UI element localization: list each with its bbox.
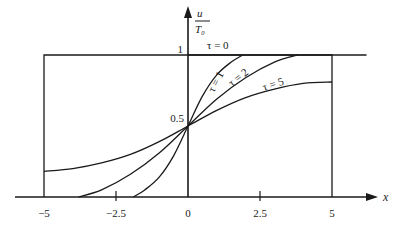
curve-label: τ = 5 [261, 75, 286, 93]
curve-labels: τ = 0τ = 1τ = 2τ = 5 [205, 39, 285, 94]
axes: x u T₀ [15, 6, 389, 204]
x-axis-arrow-icon [366, 193, 378, 201]
x-tick-label: −2.5 [106, 207, 126, 219]
x-tick-label: 0 [185, 207, 191, 219]
x-tick-label: 2.5 [253, 207, 267, 219]
x-ticks: −5−2.502.55 [38, 191, 335, 219]
curve-label: τ = 2 [226, 66, 250, 89]
curve-label: τ = 1 [205, 69, 226, 94]
x-tick-label: 5 [329, 207, 335, 219]
curves [44, 55, 367, 197]
y-tick-label: 1 [178, 43, 184, 55]
x-axis-label: x [382, 190, 389, 204]
curve-label: τ = 0 [207, 39, 229, 51]
y-tick-label: 0.5 [170, 112, 184, 124]
chart: x u T₀ −5−2.502.55 10.5 τ = 0τ = 1τ = 2τ… [0, 0, 394, 233]
y-axis-label-denominator: T₀ [195, 23, 205, 35]
y-axis-label-numerator: u [197, 7, 203, 19]
y-axis-arrow-icon [184, 6, 192, 18]
x-tick-label: −5 [38, 207, 50, 219]
